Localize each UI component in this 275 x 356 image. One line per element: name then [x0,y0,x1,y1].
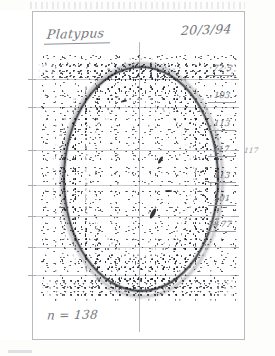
annotation-rule [208,102,236,103]
scanned-page: Platypus 20/3/94 [0,0,275,356]
tick-right [231,150,239,151]
gridline [33,247,231,248]
scan-header-smudge [30,2,245,9]
tick-right [231,79,239,80]
annotation-label: 72·5 [213,63,233,73]
gridline [33,150,231,151]
annotation-label: 113 [213,170,230,180]
annotation-rule [208,205,236,206]
tick-right [231,216,239,217]
annotation-label: 113 [213,118,230,128]
annotation-rule [208,182,236,183]
gridline [33,79,231,80]
ellipse-ring [63,66,219,292]
tick-right [231,185,239,186]
annotation-label: 101 [213,193,230,203]
tick-left [28,185,36,186]
annotation-label-struck: 7877 [208,219,233,229]
ink-blob [157,156,164,164]
data-sheet: Platypus 20/3/94 [32,11,245,340]
annotation-rule [206,231,236,232]
gridline [33,107,231,108]
gridline [33,185,231,186]
tick-left [28,247,36,248]
page-title: Platypus [46,25,105,42]
date-label: 20/3/94 [180,21,232,38]
tick-left [28,107,36,108]
tick-left [28,150,36,151]
tick-left [28,216,36,217]
title-underline [44,42,110,44]
tick-left [28,275,36,276]
annotation-rule [208,130,236,131]
tick-right [231,107,239,108]
annotation-label: 117 [212,144,229,154]
ellipse-halo [60,62,224,298]
gridline [33,275,231,276]
page-gutter [0,11,32,340]
tick-left [28,79,36,80]
tick-right [231,247,239,248]
annotation-label: 103 [213,90,230,100]
ink-blob [165,190,172,192]
gridline [33,216,231,217]
scan-footer-smudge [8,350,32,353]
scatter-plot [47,60,231,296]
tick-right [231,275,239,276]
annotation-rule [206,75,236,76]
vertical-axis [139,42,140,332]
annotation-side-note: 117 [243,146,258,155]
ink-blob [121,99,127,102]
sample-size-note: n = 138 [46,308,98,323]
annotation-struck-value: 78 [208,219,220,229]
ink-blob [149,208,158,220]
annotation-rule [208,156,236,157]
annotation-final-value: 77 [221,219,233,229]
